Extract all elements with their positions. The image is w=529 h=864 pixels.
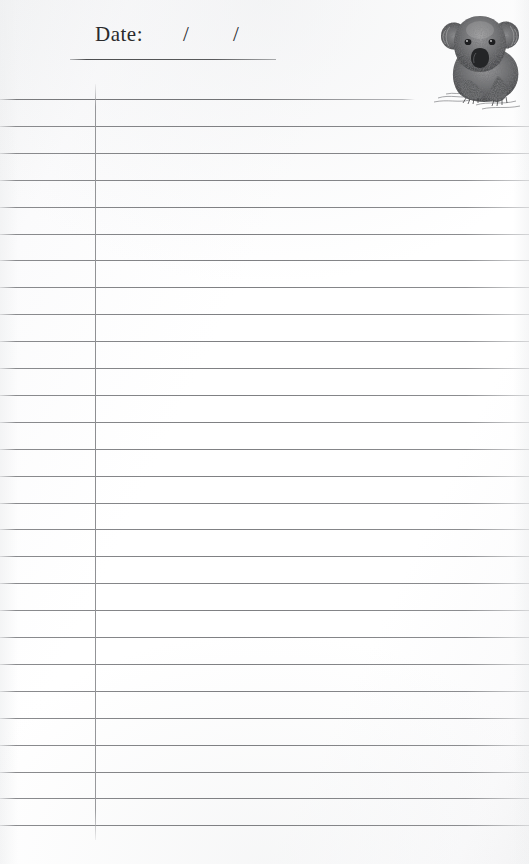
- rule-line[interactable]: [0, 449, 529, 450]
- rule-line[interactable]: [0, 529, 529, 530]
- rule-line[interactable]: [0, 583, 529, 584]
- rule-line[interactable]: [0, 825, 529, 826]
- rule-line[interactable]: [0, 422, 529, 423]
- rule-line[interactable]: [0, 798, 529, 799]
- rule-line[interactable]: [0, 260, 529, 261]
- rule-line[interactable]: [0, 287, 529, 288]
- notepad-page: Date: / /: [0, 0, 529, 864]
- rule-line[interactable]: [0, 368, 529, 369]
- rule-line[interactable]: [0, 395, 529, 396]
- koala-icon: [432, 6, 528, 116]
- rule-line[interactable]: [0, 126, 529, 127]
- rule-line[interactable]: [0, 556, 529, 557]
- rule-line[interactable]: [0, 234, 529, 235]
- rule-line[interactable]: [0, 314, 529, 315]
- margin-line: [95, 84, 96, 840]
- rule-line[interactable]: [0, 503, 529, 504]
- rule-line[interactable]: [0, 637, 529, 638]
- ruled-lines: [0, 0, 529, 864]
- rule-line[interactable]: [0, 153, 529, 154]
- rule-line[interactable]: [0, 99, 415, 100]
- rule-line[interactable]: [0, 772, 529, 773]
- rule-line[interactable]: [0, 610, 529, 611]
- rule-line[interactable]: [0, 664, 529, 665]
- rule-line[interactable]: [0, 180, 529, 181]
- rule-line[interactable]: [0, 691, 529, 692]
- rule-line[interactable]: [0, 207, 529, 208]
- rule-line[interactable]: [0, 718, 529, 719]
- rule-line[interactable]: [0, 476, 529, 477]
- rule-line[interactable]: [0, 341, 529, 342]
- rule-line[interactable]: [0, 745, 529, 746]
